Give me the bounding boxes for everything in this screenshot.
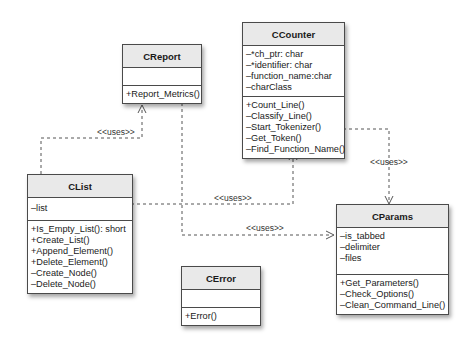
class-name: CCounter: [243, 23, 344, 46]
attribute: –files: [340, 253, 445, 264]
class-cparams[interactable]: CParams –is_tabbed –delimiter –files +Ge…: [336, 204, 449, 315]
attribute: –*ch_ptr: char: [246, 49, 341, 60]
method: –Find_Function_Name(): [246, 144, 341, 155]
attribute: –is_tabbed: [340, 231, 445, 242]
class-ccounter[interactable]: CCounter –*ch_ptr: char –*identifier: ch…: [242, 22, 345, 159]
method: –Check_Options(): [340, 289, 445, 300]
method: –Get_Token(): [246, 133, 341, 144]
method: +Append_Element(): [31, 246, 129, 257]
methods-section: +Get_Parameters() –Check_Options() –Clea…: [337, 275, 448, 314]
method: –Classify_Line(): [246, 111, 341, 122]
attributes-section: –is_tabbed –delimiter –files: [337, 228, 448, 275]
method: +Is_Empty_List(): short: [31, 224, 129, 235]
attribute: –delimiter: [340, 242, 445, 253]
class-cerror[interactable]: CError +Error(): [181, 266, 261, 326]
method: +Report_Metrics(): [126, 89, 198, 100]
attributes-section: [123, 68, 201, 86]
methods-section: +Is_Empty_List(): short +Create_List() +…: [28, 221, 132, 293]
method: –Create_Node(): [31, 268, 129, 279]
class-name: CParams: [337, 205, 448, 228]
uses-label-report-params: <<uses>>: [246, 223, 284, 233]
methods-section: +Error(): [182, 308, 260, 325]
class-name: CReport: [123, 45, 201, 68]
method: –Delete_Node(): [31, 279, 129, 290]
method: +Get_Parameters(): [340, 278, 445, 289]
attribute: –charClass: [246, 82, 341, 93]
attribute: –list: [31, 203, 129, 214]
class-name: CList: [28, 175, 132, 198]
method: +Count_Line(): [246, 100, 341, 111]
method: +Delete_Element(): [31, 257, 129, 268]
class-name: CError: [182, 267, 260, 290]
method: –Clean_Command_Line(): [340, 300, 445, 311]
methods-section: +Report_Metrics(): [123, 86, 201, 103]
method: +Error(): [185, 311, 257, 322]
method: –Start_Tokenizer(): [246, 122, 341, 133]
method: +Create_List(): [31, 235, 129, 246]
class-creport[interactable]: CReport +Report_Metrics(): [122, 44, 202, 104]
methods-section: +Count_Line() –Classify_Line() –Start_To…: [243, 97, 344, 158]
attributes-section: [182, 290, 260, 308]
attributes-section: –*ch_ptr: char –*identifier: char –funct…: [243, 46, 344, 97]
attributes-section: –list: [28, 198, 132, 221]
attribute: –*identifier: char: [246, 60, 341, 71]
uses-label-list-counter: <<uses>>: [214, 193, 252, 203]
uses-label-counter-params: <<uses>>: [370, 157, 408, 167]
attribute: –function_name:char: [246, 71, 341, 82]
uses-label-list-report: <<uses>>: [97, 127, 135, 137]
class-clist[interactable]: CList –list +Is_Empty_List(): short +Cre…: [27, 174, 133, 294]
